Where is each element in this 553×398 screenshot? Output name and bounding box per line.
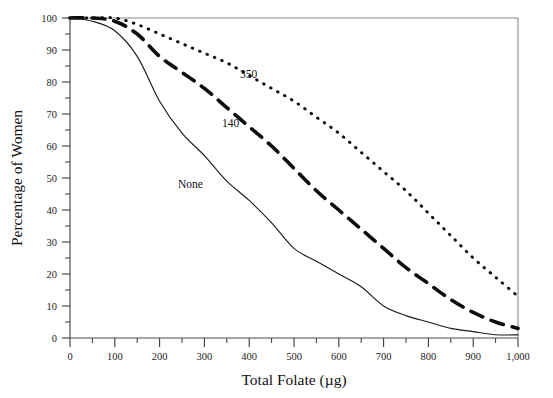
x-ticklabel: 400 [241, 351, 257, 362]
x-ticklabel: 600 [331, 351, 347, 362]
y-ticklabel: 20 [47, 269, 58, 280]
y-ticklabel: 60 [47, 141, 58, 152]
x-ticklabel: 200 [152, 351, 168, 362]
y-ticklabel: 100 [41, 13, 57, 24]
y-axis-title: Percentage of Women [8, 110, 25, 246]
series-label-none: None [178, 178, 203, 190]
y-ticklabel: 80 [47, 77, 58, 88]
y-ticklabel: 40 [47, 205, 58, 216]
y-ticklabel: 10 [47, 301, 58, 312]
y-ticklabel: 30 [47, 237, 58, 248]
y-ticklabel: 90 [47, 45, 58, 56]
x-ticklabel: 800 [421, 351, 437, 362]
data-curves [70, 18, 518, 336]
x-ticklabel: 1,000 [506, 351, 530, 362]
x-ticklabel: 500 [286, 351, 302, 362]
x-axis-title: Total Folate (µg) [241, 371, 346, 389]
plot-frame [70, 18, 518, 338]
y-axis-ticks [62, 18, 70, 338]
y-ticklabel: 70 [47, 109, 58, 120]
x-ticklabel: 700 [376, 351, 392, 362]
x-ticklabel: 300 [197, 351, 213, 362]
series-line-350 [70, 18, 518, 297]
x-ticklabel: 100 [107, 351, 123, 362]
x-axis-ticks [70, 338, 518, 347]
series-line-none [70, 18, 518, 335]
chart-figure: 100 90 80 70 60 50 40 30 20 10 0 [0, 0, 553, 398]
series-label-350: 350 [240, 68, 258, 80]
y-axis-labels: 100 90 80 70 60 50 40 30 20 10 0 [41, 13, 57, 344]
series-line-140 [70, 18, 518, 329]
y-ticklabel: 0 [52, 333, 57, 344]
x-ticklabel: 900 [465, 351, 481, 362]
x-axis-labels: 0 100 200 300 400 500 600 700 800 900 1,… [67, 351, 529, 362]
y-ticklabel: 50 [47, 173, 58, 184]
chart-svg: 100 90 80 70 60 50 40 30 20 10 0 [0, 0, 553, 398]
series-label-140: 140 [222, 117, 240, 129]
x-ticklabel: 0 [67, 351, 72, 362]
